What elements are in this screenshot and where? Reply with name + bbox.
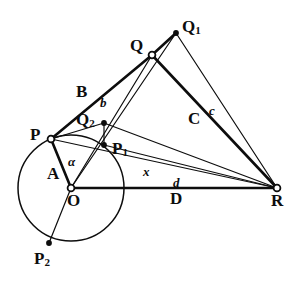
label-b: b xyxy=(100,96,107,109)
point-label-R: R xyxy=(271,192,283,209)
point-marker-P1 xyxy=(101,142,107,148)
label-c: c xyxy=(209,104,215,117)
point-label-P: P xyxy=(30,126,40,143)
point-label-O: O xyxy=(67,192,80,209)
point-marker-Q xyxy=(149,52,156,59)
point-label-P2: P2 xyxy=(34,250,50,267)
segment-Q2-R xyxy=(104,123,277,188)
point-label-P1: P1 xyxy=(112,140,128,157)
point-label-Q: Q xyxy=(130,37,143,54)
label-A: A xyxy=(47,165,59,182)
label-D: D xyxy=(170,190,182,207)
label-B: B xyxy=(76,83,87,100)
label-alpha: α xyxy=(68,155,75,168)
point-label-subscript-Q1: 1 xyxy=(195,24,201,36)
point-label-base-P: P xyxy=(30,125,40,144)
point-marker-Q1 xyxy=(173,30,179,36)
label-C: C xyxy=(188,110,200,127)
point-label-base-Q1: Q xyxy=(182,17,195,36)
segment-Q-R xyxy=(152,55,277,188)
segment-P-R xyxy=(51,139,277,188)
segment-P1-R xyxy=(104,145,277,188)
point-label-base-R: R xyxy=(271,191,283,210)
point-label-base-Q2: Q xyxy=(76,110,89,129)
segments-group xyxy=(49,33,277,243)
point-label-Q1: Q1 xyxy=(182,18,201,35)
point-label-Q2: Q2 xyxy=(76,111,95,128)
point-label-base-Q: Q xyxy=(130,36,143,55)
label-x: x xyxy=(143,165,150,178)
figure-root: AαBbCcxdD POQQ1Q2P1P2R xyxy=(0,0,291,291)
point-marker-P2 xyxy=(46,240,52,246)
point-label-subscript-Q2: 2 xyxy=(89,117,95,129)
point-label-subscript-P2: 2 xyxy=(44,256,50,268)
point-label-base-P2: P xyxy=(34,249,44,268)
geometry-canvas xyxy=(0,0,291,291)
point-label-base-P1: P xyxy=(112,139,122,158)
point-label-base-O: O xyxy=(67,191,80,210)
point-label-subscript-P1: 1 xyxy=(122,146,128,158)
point-markers-group xyxy=(46,30,280,246)
point-marker-P xyxy=(48,136,55,143)
point-marker-Q2 xyxy=(101,120,107,126)
label-d: d xyxy=(173,176,180,189)
